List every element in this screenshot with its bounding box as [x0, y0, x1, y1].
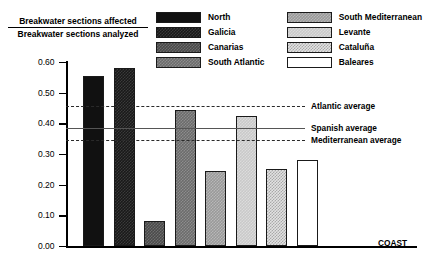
chart-page: Breakwater sections affected Breakwater …	[0, 0, 427, 266]
y-axis-title: Breakwater sections affected Breakwater …	[8, 16, 148, 39]
y-tick	[59, 62, 66, 63]
y-axis-title-denominator: Breakwater sections analyzed	[8, 28, 148, 39]
legend-label-cataluna: Cataluña	[339, 42, 422, 53]
plot-area: 0.600.500.400.300.200.100.00 Atlantic av…	[66, 62, 371, 246]
legend-swatch-south-mediterranean	[287, 12, 332, 23]
bar-baleares	[297, 160, 318, 246]
x-axis-line	[66, 246, 371, 248]
bar-north	[83, 76, 104, 246]
y-axis-title-numerator: Breakwater sections affected	[8, 16, 148, 28]
bar-cataluña	[266, 169, 287, 246]
y-tick	[59, 246, 66, 247]
legend-swatch-levante	[287, 27, 332, 38]
bar-levante	[236, 116, 257, 246]
bar-south-atlantic	[175, 110, 196, 246]
y-tick	[59, 154, 66, 155]
legend-label-north: North	[208, 12, 280, 23]
x-axis-label-coast: COAST	[378, 238, 407, 248]
y-tick	[59, 123, 66, 124]
legend-label-levante: Levante	[339, 27, 422, 38]
y-tick-label: 0.40	[38, 118, 52, 128]
reference-label-atlantic-average: Atlantic average	[311, 101, 375, 111]
bar-group	[66, 62, 371, 246]
bar-galicia	[114, 68, 135, 246]
reference-label-spanish-average: Spanish average	[311, 123, 377, 133]
legend-label-galicia: Galicia	[208, 27, 280, 38]
y-tick-label: 0.00	[38, 241, 52, 251]
y-tick-label: 0.50	[38, 88, 52, 98]
y-tick	[59, 215, 66, 216]
y-tick-label: 0.10	[38, 210, 52, 220]
y-tick	[59, 93, 66, 94]
chart-legend: North South Mediterranean Galicia Levant…	[156, 12, 422, 68]
y-tick-label: 0.30	[38, 149, 52, 159]
legend-swatch-north	[156, 12, 201, 23]
legend-label-canarias: Canarias	[208, 42, 280, 53]
y-tick-label: 0.60	[38, 57, 52, 67]
legend-swatch-cataluna	[287, 42, 332, 53]
legend-swatch-canarias	[156, 42, 201, 53]
bar-canarias	[144, 221, 165, 246]
y-tick-label: 0.20	[38, 180, 52, 190]
y-tick	[59, 185, 66, 186]
reference-line-spanish-average	[66, 128, 305, 129]
legend-swatch-galicia	[156, 27, 201, 38]
reference-line-atlantic-average	[66, 106, 305, 107]
legend-label-south-mediterranean: South Mediterranean	[339, 12, 422, 23]
reference-label-mediterranean-average: Mediterranean average	[311, 135, 401, 145]
reference-line-mediterranean-average	[66, 140, 305, 141]
bar-south-mediterranean	[205, 171, 226, 246]
